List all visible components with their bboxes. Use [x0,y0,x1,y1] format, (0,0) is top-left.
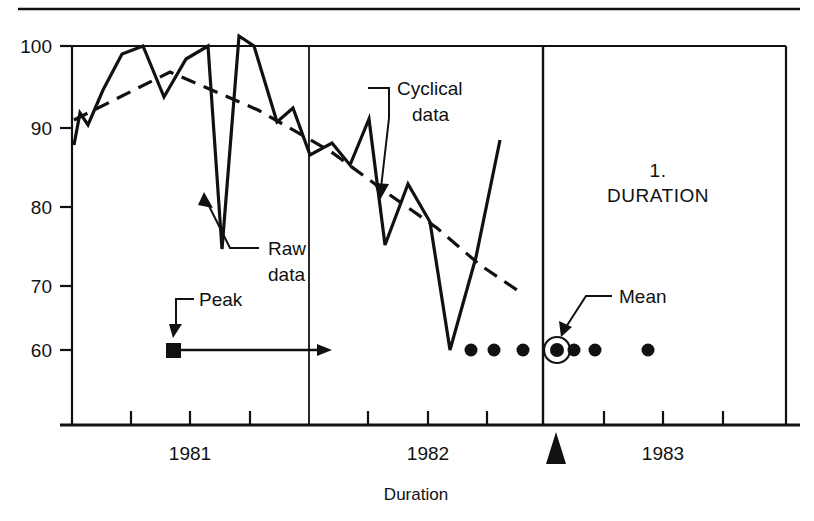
cyclical-data-label-line2: data [412,104,449,125]
figure-root: 100 90 80 70 60 [0,0,814,521]
y-axis: 100 90 80 70 60 [20,36,72,361]
section-title-line2: DURATION [607,185,709,206]
reference-point-triangle-marker [546,432,566,464]
x-tick-label-1981: 1981 [169,443,211,464]
x-tick-label-1982: 1982 [407,443,449,464]
mean-leader [566,296,612,327]
y-tick-label-70: 70 [31,276,52,297]
y-tick-label-90: 90 [31,118,52,139]
forecast-dot [465,344,478,357]
y-tick-label-100: 100 [20,36,52,57]
mean-annotation: Mean [559,286,667,337]
mean-label: Mean [619,286,667,307]
x-axis-title: Duration [384,485,448,504]
section-title-line1: 1. [650,160,667,181]
cyclical-data-label-line1: Cyclical [397,78,462,99]
raw-data-label-line1: Raw [268,238,306,259]
mean-dot [550,343,564,357]
raw-data-leader [206,200,259,248]
mean-arrowhead [559,321,572,337]
x-axis-ticks [131,411,723,425]
cyclical-data-annotation: Cyclical data [368,78,462,200]
plot-frame [60,46,800,425]
forecast-dot [589,344,602,357]
peak-square-marker [166,343,181,358]
raw-data-label-line2: data [268,264,305,285]
period-dividers [309,46,543,425]
x-tick-label-1983: 1983 [642,443,684,464]
forecast-dot-row [465,337,655,363]
peak-marker-group: Peak [166,289,332,358]
y-tick-label-60: 60 [31,340,52,361]
duration-chart: 100 90 80 70 60 [0,0,814,521]
peak-arrowhead [169,324,182,338]
forecast-dot [568,344,581,357]
duration-arrow-head [317,344,332,356]
peak-leader [176,299,194,327]
forecast-dot [517,344,530,357]
forecast-dot [642,344,655,357]
cyclical-data-arrowhead [374,183,389,200]
forecast-dot [488,344,501,357]
raw-data-annotation: Raw data [198,192,306,285]
y-tick-label-80: 80 [31,197,52,218]
x-axis-year-labels: 1981 1982 1983 [169,443,684,464]
section-title: 1. DURATION [607,160,709,206]
peak-label: Peak [199,289,243,310]
raw-data-arrowhead [198,192,213,208]
